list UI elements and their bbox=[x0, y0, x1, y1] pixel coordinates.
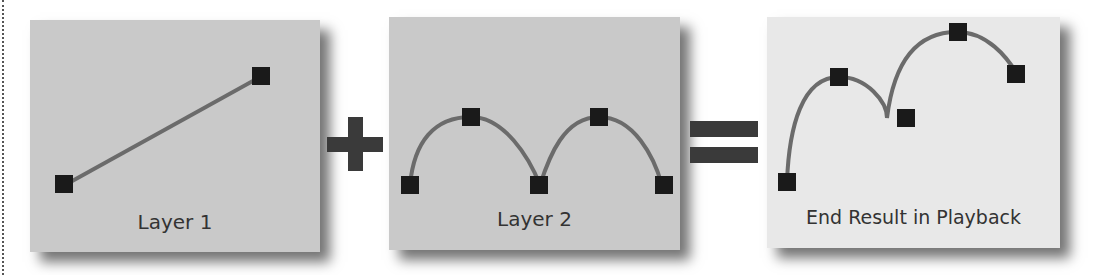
keyframe-icon bbox=[830, 68, 848, 86]
dotted-margin-rule bbox=[2, 0, 4, 275]
keyframe-icon bbox=[401, 176, 419, 194]
keyframe-icon bbox=[55, 175, 73, 193]
keyframe-icon bbox=[530, 176, 548, 194]
keyframe-icon bbox=[462, 108, 480, 126]
plus-icon bbox=[327, 117, 383, 171]
keyframe-icon bbox=[778, 173, 796, 191]
keyframe-icon bbox=[897, 109, 915, 127]
panel-label: Layer 1 bbox=[30, 210, 320, 234]
keyframe-icon bbox=[655, 176, 673, 194]
panel-layer-2: Layer 2 bbox=[389, 17, 680, 250]
keyframe-icon bbox=[252, 67, 270, 85]
equals-icon bbox=[690, 121, 758, 164]
keyframe-icon bbox=[1007, 65, 1025, 83]
panel-end-result: End Result in Playback bbox=[767, 17, 1060, 248]
panel-label: End Result in Playback bbox=[767, 206, 1060, 228]
keyframe-icon bbox=[590, 108, 608, 126]
panel-layer-1: Layer 1 bbox=[30, 20, 320, 252]
panel-label: Layer 2 bbox=[389, 207, 680, 231]
keyframe-icon bbox=[949, 23, 967, 41]
